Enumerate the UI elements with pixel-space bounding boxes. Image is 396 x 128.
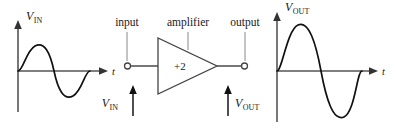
output-plot-y-axis-arrowhead — [273, 12, 281, 21]
input-plot-x-axis-label: t — [112, 66, 116, 77]
input-plot-y-axis-arrowhead — [14, 20, 22, 29]
output-source-arrow-head — [224, 85, 232, 94]
input-source-arrow-head — [129, 85, 137, 94]
input-plot-y-axis-label-subscript: IN — [34, 16, 43, 25]
output-plot-y-axis-label-subscript: OUT — [293, 7, 310, 16]
amplifier-output-source-label: VOUT — [235, 96, 259, 112]
amplifier-output-source-label-subscript: OUT — [243, 103, 260, 112]
amplifier-output-label: output — [230, 16, 260, 29]
amplifier-output-terminal[interactable] — [242, 63, 248, 69]
amplifier-name-label: amplifier — [167, 16, 209, 29]
output-plot-x-axis-label: t — [382, 66, 386, 77]
amplifier-gain-label: +2 — [174, 60, 186, 72]
output-plot-y-axis-label: VOUT — [285, 0, 309, 16]
output-plot-x-axis-arrowhead — [369, 67, 378, 75]
amplifier-input-source-label: VIN — [102, 96, 119, 112]
amplifier-diagram: VIN t input amplifier output +2 — [0, 0, 396, 128]
amplifier-input-terminal[interactable] — [125, 63, 131, 69]
output-waveform-plot: VOUT t — [273, 0, 386, 122]
amplifier-input-source-label-subscript: IN — [110, 103, 119, 112]
amplifier-schematic: input amplifier output +2 VIN VOUT — [102, 16, 261, 116]
input-plot-x-axis-arrowhead — [99, 67, 108, 75]
input-plot-y-axis-label: VIN — [26, 9, 43, 25]
figure-svg: VIN t input amplifier output +2 — [0, 0, 396, 128]
amplifier-input-label: input — [115, 16, 139, 29]
